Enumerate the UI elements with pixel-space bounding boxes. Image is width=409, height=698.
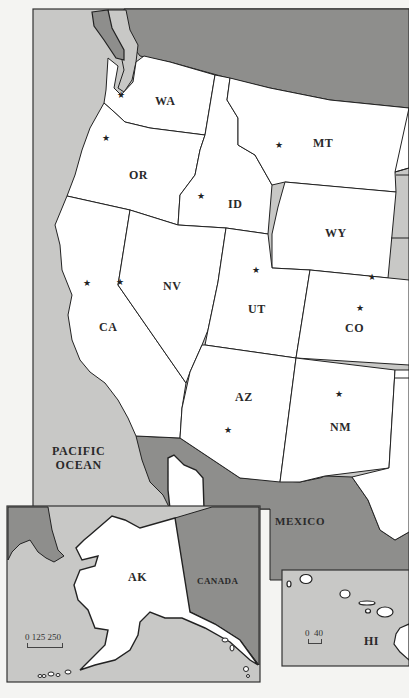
capital-star-icon: ★ [252,266,260,275]
capital-star-icon: ★ [83,279,91,288]
capital-star-icon: ★ [368,273,376,282]
alaska-inset [7,506,260,682]
western-us-map [0,0,409,698]
hawaii-scale-label: 0 40 [305,628,323,638]
state-label-ak: AK [128,570,147,585]
capital-star-icon: ★ [224,426,232,435]
state-label-mt: MT [313,136,333,151]
capital-star-icon: ★ [335,390,343,399]
niihau [287,581,291,587]
state-label-id: ID [228,197,242,212]
alaska-scale-bar [27,643,63,648]
state-label-nv: NV [163,279,181,294]
state-label-hi: HI [364,634,379,649]
state-label-wy: WY [325,226,347,241]
state-label-co: CO [345,321,364,336]
hawaii-inset [282,570,409,666]
kauai [300,575,312,584]
capital-star-icon: ★ [197,192,205,201]
state-label-wa: WA [155,94,175,109]
lanai [366,609,371,613]
state-label-az: AZ [235,390,253,405]
molokai [359,601,375,605]
state-label-ut: UT [248,302,266,317]
capital-star-icon: ★ [116,278,124,287]
state-label-or: OR [129,168,148,183]
canada-label: CANADA [197,576,238,586]
alaska-scale: 0 125 250 [25,632,63,648]
capital-star-icon: ★ [117,91,125,100]
state-label-ca: CA [99,320,117,335]
pacific-label-line2: OCEAN [52,458,105,472]
maui [377,607,393,617]
hawaii-scale: 0 40 [305,628,323,644]
state-co [296,270,409,365]
alaska-scale-label: 0 125 250 [25,632,63,642]
state-label-nm: NM [330,420,351,435]
capital-star-icon: ★ [275,141,283,150]
mexico-label: MEXICO [275,515,325,527]
capital-star-icon: ★ [356,304,364,313]
capital-star-icon: ★ [102,134,110,143]
oahu [340,590,350,598]
pacific-label-line1: PACIFIC [52,444,105,458]
hawaii-scale-bar [308,639,322,644]
pacific-ocean-label: PACIFIC OCEAN [52,444,105,472]
